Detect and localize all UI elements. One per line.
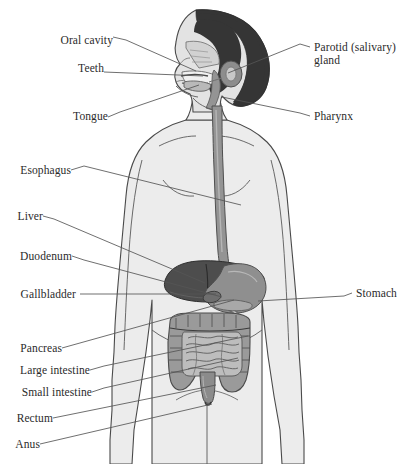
label-pharynx: Pharynx [314, 110, 353, 123]
label-small-intestine: Small intestine [4, 386, 92, 399]
label-oral-cavity: Oral cavity [8, 34, 113, 47]
label-parotid-gland: Parotid (salivary) gland [314, 41, 396, 67]
label-tongue: Tongue [8, 110, 108, 123]
label-large-intestine: Large intestine [4, 364, 90, 377]
leader-pharynx [222, 97, 310, 116]
label-teeth: Teeth [8, 62, 104, 75]
label-stomach: Stomach [356, 287, 397, 300]
label-duodenum: Duodenum [4, 250, 72, 263]
label-anus: Anus [4, 438, 40, 451]
label-pancreas: Pancreas [4, 342, 62, 355]
digestive-system-figure: Oral cavity Teeth Tongue Esophagus Liver… [0, 0, 414, 464]
pancreas-organ [214, 300, 252, 311]
small-intestine-organ [182, 332, 242, 376]
label-rectum: Rectum [4, 412, 53, 425]
label-gallbladder: Gallbladder [4, 288, 76, 301]
label-liver: Liver [4, 210, 43, 223]
label-esophagus: Esophagus [4, 164, 71, 177]
leader-tongue [108, 85, 199, 117]
